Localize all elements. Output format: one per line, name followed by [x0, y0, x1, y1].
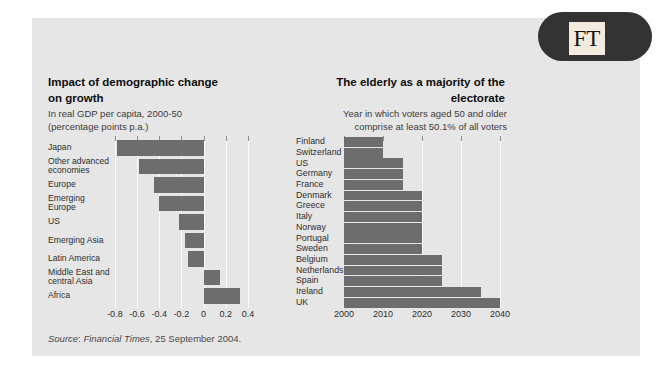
- bar: [344, 244, 422, 254]
- axis-tick: [500, 136, 501, 141]
- bar: [344, 276, 442, 286]
- ft-logo-text: FT: [574, 26, 601, 52]
- bar: [344, 180, 403, 190]
- right-chart-category-labels: FinlandSwitzerlandUSGermanyFranceDenmark…: [296, 136, 343, 308]
- bar: [139, 159, 203, 175]
- category-label: Belgium: [296, 255, 328, 265]
- axis-tick-label: 2040: [482, 309, 518, 319]
- category-label: Ireland: [296, 287, 323, 297]
- gridline: [248, 136, 249, 308]
- category-label: UK: [296, 298, 308, 308]
- category-label: Emerging Asia: [48, 231, 103, 251]
- gridline: [226, 136, 227, 308]
- right-chart-subtitle: Year in which voters aged 50 and older c…: [300, 108, 507, 133]
- bar: [344, 266, 442, 276]
- left-chart-subtitle: In real GDP per capita, 2000-50 (percent…: [48, 108, 182, 133]
- bar: [159, 196, 203, 212]
- axis-tick: [115, 136, 116, 141]
- bar: [344, 212, 422, 222]
- bar: [344, 223, 422, 233]
- source-line: Source: Financial Times, 25 September 20…: [48, 333, 241, 344]
- left-chart-x-axis: -0.8-0.6-0.4-0.200.20.4: [110, 309, 252, 321]
- left-chart-title-line-2: on growth: [48, 90, 218, 106]
- right-chart-x-axis: 20002010202020302040: [344, 309, 504, 321]
- left-chart-plot: [110, 136, 252, 308]
- bar: [185, 233, 204, 249]
- bar: [117, 140, 203, 156]
- category-label: US: [48, 212, 60, 232]
- bar: [344, 255, 442, 265]
- axis-tick: [226, 136, 227, 141]
- left-chart-subtitle-line-1: In real GDP per capita, 2000-50: [48, 108, 182, 121]
- category-label: Denmark: [296, 191, 332, 201]
- category-label: France: [296, 180, 323, 190]
- axis-tick: [204, 136, 205, 141]
- axis-tick-label: 2010: [365, 309, 401, 319]
- right-chart-subtitle-line-1: Year in which voters aged 50 and older: [300, 108, 507, 121]
- left-chart-category-labels: JapanOther advancedeconomiesEuropeEmergi…: [48, 136, 110, 308]
- axis-tick-label: 2030: [443, 309, 479, 319]
- gridline: [500, 136, 501, 308]
- bar: [204, 288, 241, 304]
- category-label: Spain: [296, 276, 319, 286]
- axis-tick-label: 2020: [404, 309, 440, 319]
- category-label: Japan: [48, 138, 71, 158]
- axis-tick: [422, 136, 423, 141]
- bar: [344, 158, 403, 168]
- category-label: Middle East andcentral Asia: [48, 268, 110, 288]
- bar: [344, 233, 422, 243]
- gridline: [461, 136, 462, 308]
- left-chart-subtitle-line-2: (percentage points p.a.): [48, 121, 182, 134]
- right-chart-subtitle-line-2: comprise at least 50.1% of all voters: [300, 121, 507, 134]
- category-label: US: [296, 158, 308, 168]
- axis-tick-label: 0.4: [230, 309, 266, 319]
- category-label: Germany: [296, 169, 332, 179]
- ft-logo-monogram: FT: [569, 22, 605, 55]
- ft-graphic: FT Impact of demographic change on growt…: [0, 0, 668, 379]
- bar: [188, 251, 204, 267]
- bar: [204, 270, 221, 286]
- category-label: Europe: [48, 175, 76, 195]
- right-chart-title-line-1: The elderly as a majority of the: [290, 74, 505, 90]
- category-label: Portugal: [296, 233, 329, 243]
- category-label: Finland: [296, 137, 325, 147]
- axis-tick: [461, 136, 462, 141]
- bar: [344, 191, 422, 201]
- category-label: Africa: [48, 286, 70, 306]
- category-label: Switzerland: [296, 148, 341, 158]
- axis-tick: [248, 136, 249, 141]
- bar: [179, 214, 203, 230]
- category-label: Italy: [296, 212, 312, 222]
- category-label: Greece: [296, 201, 325, 211]
- bar: [344, 137, 383, 147]
- axis-tick: [383, 136, 384, 141]
- left-chart-title: Impact of demographic change on growth: [48, 74, 218, 106]
- category-label: Sweden: [296, 244, 328, 254]
- gridline: [137, 136, 138, 308]
- ft-logo: FT: [538, 12, 652, 61]
- right-chart-title: The elderly as a majority of the elector…: [290, 74, 505, 106]
- left-chart-title-line-1: Impact of demographic change: [48, 74, 218, 90]
- bar: [344, 201, 422, 211]
- category-label: Norway: [296, 223, 326, 233]
- bar: [344, 287, 481, 297]
- category-label: Other advancedeconomies: [48, 157, 109, 177]
- bar: [344, 298, 500, 308]
- bar: [344, 169, 403, 179]
- source-publication: Financial Times: [83, 333, 149, 344]
- right-chart-title-line-2: electorate: [290, 90, 505, 106]
- category-label: Latin America: [48, 249, 100, 269]
- bar: [344, 148, 383, 158]
- right-chart-plot: [344, 136, 504, 308]
- bar: [154, 177, 204, 193]
- category-label: Netherlands: [296, 266, 343, 276]
- source-date: , 25 September 2004.: [150, 333, 241, 344]
- category-label: Emerging Europe: [48, 194, 110, 214]
- source-word: Source: [48, 333, 78, 344]
- axis-tick-label: 2000: [326, 309, 362, 319]
- gridline: [115, 136, 116, 308]
